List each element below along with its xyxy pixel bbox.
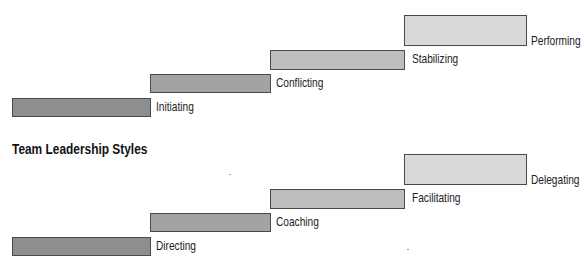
speck <box>229 174 231 175</box>
style-label-delegating: Delegating <box>531 172 579 187</box>
style-label-facilitating: Facilitating <box>412 190 460 205</box>
stage-bar-stabilizing <box>270 50 405 70</box>
stage-label-initiating: Initiating <box>156 99 194 114</box>
diagram-title: Team Leadership Styles <box>12 141 147 157</box>
stage-bar-initiating <box>12 98 151 117</box>
stage-label-performing: Performing <box>531 33 581 48</box>
style-bar-delegating <box>404 154 527 185</box>
style-bar-directing <box>12 237 151 256</box>
style-bar-facilitating <box>270 189 405 209</box>
speck <box>407 249 409 250</box>
stage-bar-conflicting <box>150 74 271 93</box>
stage-label-stabilizing: Stabilizing <box>412 51 458 66</box>
style-label-directing: Directing <box>156 238 196 253</box>
stage-label-conflicting: Conflicting <box>276 75 323 90</box>
stage-bar-performing <box>404 15 527 46</box>
style-bar-coaching <box>150 213 271 232</box>
style-label-coaching: Coaching <box>276 214 319 229</box>
